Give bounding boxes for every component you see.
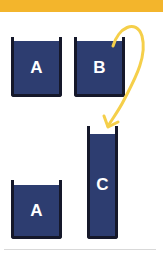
pour-arrow-icon xyxy=(0,0,163,254)
divider xyxy=(4,249,156,250)
